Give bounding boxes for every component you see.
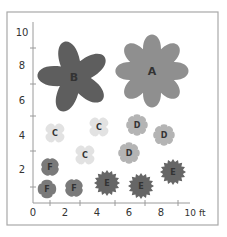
- shape-e: E: [94, 170, 120, 196]
- shape-label: D: [161, 131, 168, 140]
- shape-label: D: [134, 121, 141, 130]
- shape-label: C: [52, 129, 58, 138]
- shape-d: D: [153, 124, 175, 146]
- shape-e: E: [128, 173, 154, 199]
- shape-f: F: [41, 158, 58, 175]
- shape-label: F: [44, 185, 49, 194]
- x-tick-label: 8: [158, 207, 164, 218]
- x-tick-label: 10 ft: [185, 208, 206, 218]
- y-tick-label: 4: [19, 130, 25, 141]
- shape-f: F: [65, 179, 82, 196]
- shape-diagram: 1086420246810 ft BACCCDDDFFFEEE: [0, 0, 227, 237]
- shape-label: C: [96, 123, 102, 132]
- y-tick-label: 6: [19, 95, 25, 106]
- diagram-frame: [7, 12, 218, 225]
- shape-label: B: [70, 71, 78, 84]
- y-tick-label: 10: [16, 27, 29, 38]
- y-tick-label: 8: [19, 60, 25, 71]
- shape-label: C: [82, 151, 88, 160]
- x-tick-label: 0: [30, 207, 36, 218]
- shape-label: E: [170, 168, 175, 177]
- y-tick-label: 2: [19, 164, 25, 175]
- x-tick-label: 2: [62, 207, 68, 218]
- shape-d: D: [118, 142, 140, 164]
- shape-label: F: [47, 163, 52, 172]
- x-tick-label: 4: [94, 207, 100, 218]
- shape-label: E: [104, 179, 109, 188]
- shape-label: D: [126, 149, 133, 158]
- shape-d: D: [126, 114, 148, 136]
- shape-label: A: [148, 65, 157, 78]
- shape-a: A: [115, 34, 188, 107]
- shape-e: E: [160, 159, 186, 185]
- x-tick-label: 6: [126, 207, 132, 218]
- shape-label: E: [138, 182, 143, 191]
- shape-label: F: [71, 184, 76, 193]
